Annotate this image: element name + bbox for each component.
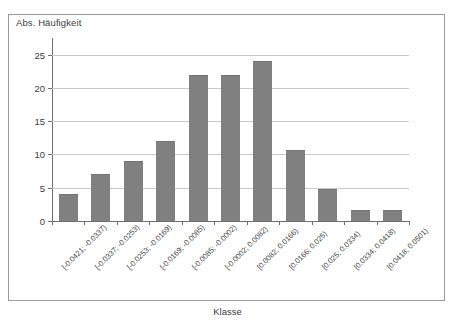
x-tick-mark — [214, 221, 215, 225]
y-tick-label: 10 — [34, 149, 45, 160]
bar — [351, 210, 370, 221]
x-tick-mark — [182, 221, 183, 225]
x-tick-mark — [84, 221, 85, 225]
x-tick-mark — [279, 221, 280, 225]
y-tick-mark — [48, 154, 52, 155]
bar — [221, 75, 240, 221]
y-tick-mark — [48, 55, 52, 56]
y-tick-mark — [48, 188, 52, 189]
bar — [253, 61, 272, 221]
gridline — [52, 55, 409, 56]
histogram-screenshot: Abs. Häufigkeit 0510152025 [-0.0421; -0.… — [0, 0, 455, 331]
y-tick-label: 20 — [34, 82, 45, 93]
y-tick-label: 25 — [34, 49, 45, 60]
y-tick-label: 0 — [40, 216, 45, 227]
x-tick-mark — [344, 221, 345, 225]
x-tick-mark — [409, 221, 410, 225]
bar — [91, 174, 110, 221]
y-tick-label: 5 — [40, 182, 45, 193]
x-tick-mark — [377, 221, 378, 225]
bar — [156, 141, 175, 221]
x-axis-line — [52, 221, 410, 222]
y-tick-mark — [48, 88, 52, 89]
plot-area: 0510152025 [-0.0421; -0.0337)[-0.0337; -… — [52, 38, 409, 221]
y-tick-label: 15 — [34, 116, 45, 127]
y-axis-title: Abs. Häufigkeit — [13, 17, 84, 28]
x-tick-mark — [52, 221, 53, 225]
bar — [318, 189, 337, 221]
y-tick-mark — [48, 121, 52, 122]
x-tick-mark — [247, 221, 248, 225]
x-tick-mark — [312, 221, 313, 225]
bar — [189, 75, 208, 221]
bar — [59, 194, 78, 221]
x-tick-mark — [149, 221, 150, 225]
x-tick-mark — [117, 221, 118, 225]
bar — [286, 150, 305, 221]
bar — [383, 210, 402, 221]
x-axis-title: Klasse — [0, 306, 455, 317]
bar — [124, 161, 143, 221]
